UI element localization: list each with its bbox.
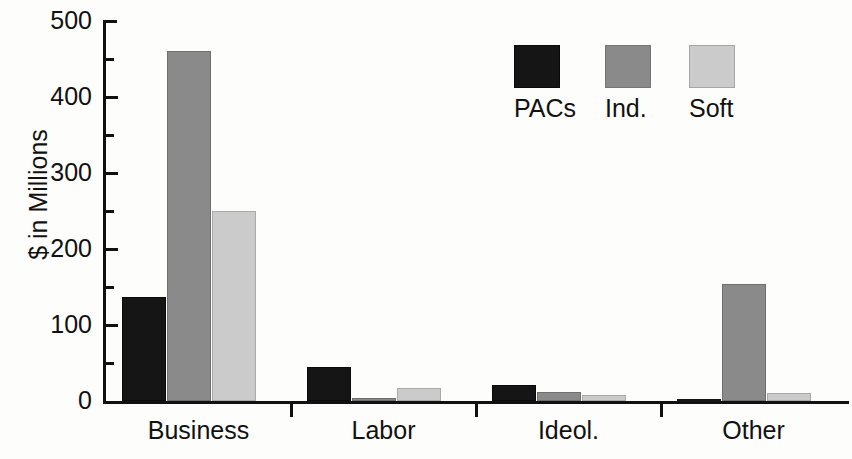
legend-label-ind: Ind. [605, 94, 695, 123]
bar-other-ind [722, 284, 766, 402]
legend-swatch-ind [605, 45, 651, 88]
x-axis-group-tick [290, 404, 293, 417]
legend-entry-soft: Soft [689, 45, 779, 123]
x-group-label-labor: Labor [291, 416, 476, 445]
legend-entry-ind: Ind. [605, 45, 695, 123]
chart-legend: PACsInd.Soft [505, 45, 805, 150]
x-group-label-business: Business [106, 416, 291, 445]
bar-other-soft [767, 393, 811, 401]
bar-labor-soft [397, 388, 441, 402]
legend-swatch-pacs [514, 45, 560, 88]
bar-ideol-ind [537, 392, 581, 401]
bar-labor-pacs [307, 367, 351, 401]
legend-label-soft: Soft [689, 94, 779, 123]
bar-ideol-pacs [492, 385, 536, 402]
bar-business-soft [212, 211, 256, 402]
legend-entry-pacs: PACs [514, 45, 604, 123]
legend-label-pacs: PACs [514, 94, 604, 123]
bar-business-pacs [122, 297, 166, 402]
legend-swatch-soft [689, 45, 735, 88]
bar-chart: $ in Millions 0100200300400500 BusinessL… [0, 0, 852, 459]
x-axis-group-tick [475, 404, 478, 417]
bar-ideol-soft [582, 395, 626, 401]
bar-other-pacs [677, 399, 721, 401]
bar-labor-ind [352, 398, 396, 402]
x-group-label-ideol: Ideol. [476, 416, 661, 445]
bar-business-ind [167, 51, 211, 401]
x-axis-group-tick [660, 404, 663, 417]
x-group-label-other: Other [661, 416, 846, 445]
